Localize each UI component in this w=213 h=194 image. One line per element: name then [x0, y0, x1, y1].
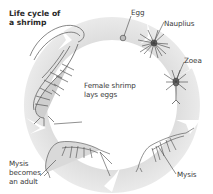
title-line-1: Life cycle of: [9, 9, 60, 18]
female-shrimp-line-2: lays eggs: [84, 90, 136, 99]
diagram-title: Life cycle of a shrimp: [9, 9, 60, 27]
mysis-label: Mysis: [177, 171, 196, 180]
shrimp-life-cycle-diagram: Life cycle of a shrimp Egg Nauplius Zoea…: [0, 0, 213, 194]
mysis-becomes-adult-label: Mysis becomes an adult: [9, 160, 41, 186]
female-shrimp-line-1: Female shrimp: [84, 81, 136, 90]
egg-label: Egg: [131, 9, 144, 18]
title-line-2: a shrimp: [9, 18, 60, 27]
zoea-label: Zoea: [184, 57, 202, 66]
egg-illustration: [120, 35, 126, 41]
female-shrimp-leader: [54, 122, 82, 124]
mysis-adult-line-3: an adult: [9, 178, 41, 187]
nauplius-label: Nauplius: [164, 20, 194, 29]
female-shrimp-label: Female shrimp lays eggs: [84, 81, 136, 100]
